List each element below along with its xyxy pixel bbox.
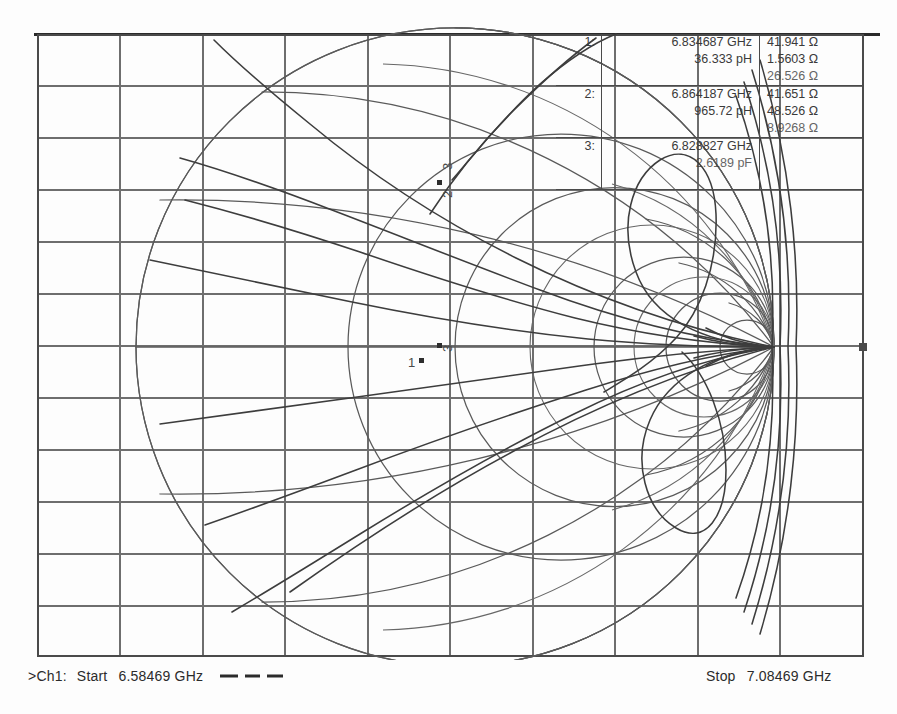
marker-3-value-3 [767,174,863,191]
marker-3-equivalent: 2.6189 pF [609,157,752,174]
marker-row-2[interactable]: 2: 6.864187 GHz 965.72 pH 41.651 Ω 48.52… [556,86,863,138]
status-bar-right[interactable]: Stop 7.08469 GHz [706,668,831,684]
chart-marker-label-3-mid: 3 [441,345,454,352]
marker-index-2: 2: [556,86,602,137]
marker-1-value-2: 1.5603 Ω [767,53,863,70]
marker-values-1: 6.834687 GHz 36.333 pH [602,34,760,85]
marker-3-value-1 [767,140,863,157]
marker-3-value-2 [767,157,863,174]
status-bar-left[interactable]: >Ch1: Start 6.58469 GHz [28,668,285,685]
stop-label: Stop [706,668,736,684]
trace-style-swatch[interactable] [219,667,285,683]
chart-marker-label-2: 2 [441,191,454,198]
marker-impedance-2: 41.651 Ω 48.526 Ω 8.9268 Ω [760,86,863,137]
marker-1-frequency: 6.834687 GHz [609,36,752,53]
chart-marker-label-1: 1 [408,356,415,369]
marker-dot-2 [437,180,442,185]
chart-marker-label-3-top: 3 [441,163,454,170]
start-value: 6.58469 GHz [119,668,204,684]
marker-1-value-3: 26.526 Ω [767,70,863,87]
status-bar: >Ch1: Start 6.58469 GHz Stop 7.08469 GHz [0,660,897,714]
vna-screen: 1 2 3 3 1: 6.834687 GHz 36.333 pH 41.941… [0,0,897,714]
marker-1-value-1: 41.941 Ω [767,36,863,53]
axis-right-tick [859,343,867,351]
marker-impedance-3 [760,138,863,189]
marker-values-3: 6.828827 GHz 2.6189 pF [602,138,760,189]
marker-readout-table[interactable]: 1: 6.834687 GHz 36.333 pH 41.941 Ω 1.560… [556,34,863,190]
marker-2-frequency: 6.864187 GHz [609,88,752,105]
stop-value: 7.08469 GHz [747,668,832,684]
marker-3-frequency: 6.828827 GHz [609,140,752,157]
marker-values-2: 6.864187 GHz 965.72 pH [602,86,760,137]
marker-row-1[interactable]: 1: 6.834687 GHz 36.333 pH 41.941 Ω 1.560… [556,34,863,86]
dashed-line-icon [219,672,285,680]
channel-label: >Ch1: [28,668,67,684]
marker-1-equivalent: 36.333 pH [609,53,752,70]
marker-2-value-2: 48.526 Ω [767,105,863,122]
marker-dots [419,180,442,363]
smith-chart-plot[interactable]: 1 2 3 3 1: 6.834687 GHz 36.333 pH 41.941… [0,0,897,660]
marker-index-3: 3: [556,138,602,189]
marker-index-1: 1: [556,34,602,85]
marker-2-equivalent: 965.72 pH [609,105,752,122]
marker-impedance-1: 41.941 Ω 1.5603 Ω 26.526 Ω [760,34,863,85]
marker-2-value-3: 8.9268 Ω [767,122,863,139]
start-label: Start [77,668,108,684]
marker-dot-1 [419,358,424,363]
marker-2-value-1: 41.651 Ω [767,88,863,105]
marker-row-3[interactable]: 3: 6.828827 GHz 2.6189 pF [556,138,863,190]
